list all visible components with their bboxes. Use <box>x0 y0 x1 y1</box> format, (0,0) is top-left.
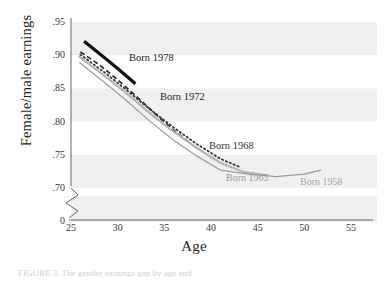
x-tick-label: 30 <box>105 222 131 233</box>
y-tick-label: .90 <box>35 49 65 60</box>
y-tick-label: .80 <box>35 116 65 127</box>
series-label-born-1978: Born 1978 <box>129 52 174 63</box>
x-tick-label: 25 <box>58 222 84 233</box>
x-tick-label: 55 <box>338 222 364 233</box>
chart-figure: Female/male earnings Age .70.75.80.85.90… <box>0 0 388 282</box>
y-tick-label: .75 <box>35 149 65 160</box>
y-axis-label: Female/male earnings <box>18 1 35 161</box>
y-tick-label: .85 <box>35 82 65 93</box>
series-label-born-1968: Born 1968 <box>209 140 254 151</box>
series-label-born-1972: Born 1972 <box>160 91 205 102</box>
series-label-born-1963: Born 1963 <box>226 172 269 183</box>
x-tick-label: 35 <box>151 222 177 233</box>
x-axis-label: Age <box>0 238 388 255</box>
y-tick-label: .70 <box>35 182 65 193</box>
y-tick-label: .95 <box>35 16 65 27</box>
x-tick-label: 45 <box>245 222 271 233</box>
x-tick-label: 50 <box>291 222 317 233</box>
figure-caption: FIGURE 3. The gender earnings gap by age… <box>18 268 238 277</box>
x-tick-label: 40 <box>198 222 224 233</box>
series-label-born-1958: Born 1958 <box>300 176 343 187</box>
